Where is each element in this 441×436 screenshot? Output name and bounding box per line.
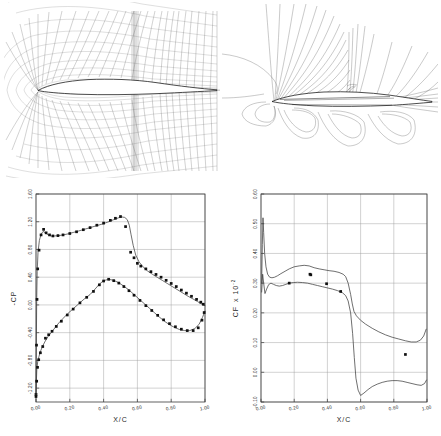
airfoil-outline [38,79,217,95]
data-point [124,225,127,228]
data-point [102,222,105,225]
data-point [136,262,139,265]
data-point [175,285,178,288]
data-point [180,328,183,331]
data-point [195,298,198,301]
data-point [45,231,48,234]
data-point [145,304,148,307]
x-tick-label: 0.20 [289,405,300,412]
y-tick-label: -0.40 [28,327,33,339]
x-axis-title: X/C [113,416,128,423]
y-tick-label: 0.00 [253,367,258,377]
data-point [62,234,65,237]
data-curve [262,218,427,342]
x-tick-label: 0.00 [255,405,266,412]
data-curve [36,217,205,395]
data-point [325,282,328,285]
data-point [36,298,39,301]
data-point [150,270,153,273]
data-point [165,279,168,282]
data-point [139,299,142,302]
data-point [85,296,88,299]
x-tick-label: 0.80 [166,405,177,412]
data-point [288,282,291,285]
data-point [202,303,205,306]
data-point [48,234,51,237]
data-point [95,224,98,227]
data-point [40,234,43,237]
data-point [123,285,126,288]
data-point [117,282,120,285]
y-axis-title: CFx 10-2 [231,279,239,318]
plot-frame [36,194,205,402]
data-point [192,329,195,332]
data-point [36,268,39,271]
mach-contour-svg [222,2,438,178]
data-point [129,251,132,254]
x-tick-label: 0.00 [30,405,41,412]
data-point [38,249,41,252]
x-tick-label: 0.40 [98,405,109,412]
data-curve [262,274,427,395]
data-point [168,322,171,325]
computational-grid-panel [4,2,220,178]
data-point [128,289,131,292]
data-point [203,311,206,314]
data-point [114,217,117,220]
y-tick-label: 0.40 [253,248,258,258]
x-tick-label: 0.20 [64,405,75,412]
data-point [162,318,165,321]
cf-plot-svg: 0.600.500.400.300.200.100.00-0.100.000.2… [221,180,441,436]
data-point [35,380,38,383]
data-point [119,215,122,218]
data-point [47,333,50,336]
x-axis-title: X/C [337,416,352,423]
data-point [107,278,110,281]
contour-lines [222,4,438,146]
data-point [41,345,44,348]
data-point [170,282,173,285]
y-tick-label: 0.30 [253,278,258,288]
data-point [82,228,85,231]
data-point [102,280,105,283]
data-point [150,309,153,312]
x-tick-label: 0.40 [322,405,333,412]
y-tick-label: 0.40 [28,272,33,282]
data-point [156,314,159,317]
y-tick-label: 1.20 [28,217,33,227]
data-point [57,234,60,237]
data-point [44,337,47,340]
data-point [174,325,177,328]
data-point [201,319,204,322]
data-point [133,294,136,297]
grid-svg [4,2,220,178]
data-point [75,230,78,233]
x-tick-label: 0.60 [355,405,366,412]
data-point [180,289,183,292]
data-point [35,344,38,347]
data-point [55,325,58,328]
y-tick-label: 0.10 [253,337,258,347]
data-point [79,302,82,305]
data-point [199,301,202,304]
data-point [72,308,75,311]
y-tick-label: -1.20 [28,382,33,394]
y-tick-label: 0.00 [28,300,33,310]
data-point [92,290,95,293]
data-curve [36,279,205,397]
data-point [133,256,136,259]
y-tick-label: 1.60 [28,189,33,199]
data-markers [35,278,206,398]
data-point [42,228,45,231]
figure-container: 1.601.200.800.400.00-0.40-0.80-1.200.000… [0,0,441,436]
data-point [52,235,55,238]
data-point [60,320,63,323]
y-tick-label: 0.60 [253,189,258,199]
x-tick-label: 0.60 [132,405,143,412]
data-point [404,353,407,356]
plot-frame [261,194,427,402]
data-point [51,330,54,333]
data-point [185,292,188,295]
data-point [339,290,342,293]
data-point [37,358,40,361]
